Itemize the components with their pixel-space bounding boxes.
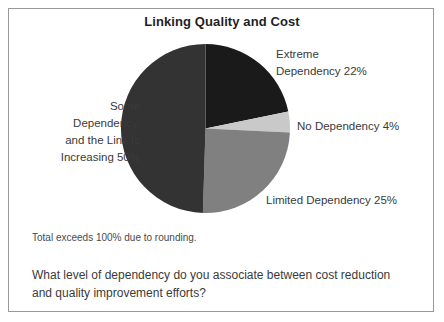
survey-question-line2: and quality improvement efforts? (32, 284, 412, 302)
chart-figure: Linking Quality and Cost Extreme Depende… (0, 0, 444, 322)
pie-label-extreme-dependency: Extreme Dependency 22% (276, 46, 367, 80)
survey-question: What level of dependency do you associat… (32, 266, 412, 302)
pie-svg (121, 44, 290, 213)
pie-label-some-dependency: Some Dependency, and the Link Is Increas… (22, 98, 140, 166)
pie-label-extreme-line2: Dependency 22% (276, 65, 367, 77)
pie-label-some-line2: Dependency, (73, 117, 140, 129)
pie-label-some-line1: Some (110, 100, 140, 112)
pie-label-some-line4: Increasing 50% (61, 151, 140, 163)
chart-footnote: Total exceeds 100% due to rounding. (32, 232, 197, 243)
pie-label-extreme-line1: Extreme (276, 48, 319, 60)
pie-label-no-dependency: No Dependency 4% (297, 118, 399, 135)
pie-label-limited-dependency: Limited Dependency 25% (266, 192, 397, 209)
pie-label-some-line3: and the Link Is (65, 134, 140, 146)
pie-chart (121, 44, 290, 213)
chart-title: Linking Quality and Cost (0, 14, 444, 29)
survey-question-line1: What level of dependency do you associat… (32, 266, 412, 284)
